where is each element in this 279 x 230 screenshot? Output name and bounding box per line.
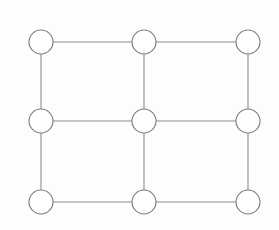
graph-node-circle[interactable] — [132, 190, 156, 214]
graph-node-circle[interactable] — [132, 30, 156, 54]
graph-node[interactable] — [236, 30, 260, 54]
graph-node[interactable] — [132, 109, 156, 133]
graph-node-circle[interactable] — [29, 109, 53, 133]
graph-diagram — [0, 0, 279, 230]
graph-node-circle[interactable] — [29, 190, 53, 214]
graph-node[interactable] — [236, 109, 260, 133]
graph-node-circle[interactable] — [236, 109, 260, 133]
graph-node[interactable] — [29, 30, 53, 54]
graph-node[interactable] — [29, 109, 53, 133]
graph-node-circle[interactable] — [29, 30, 53, 54]
graph-node[interactable] — [29, 190, 53, 214]
graph-node-circle[interactable] — [236, 190, 260, 214]
graph-node-circle[interactable] — [236, 30, 260, 54]
graph-node[interactable] — [236, 190, 260, 214]
graph-node[interactable] — [132, 30, 156, 54]
graph-node-circle[interactable] — [132, 109, 156, 133]
graph-node[interactable] — [132, 190, 156, 214]
